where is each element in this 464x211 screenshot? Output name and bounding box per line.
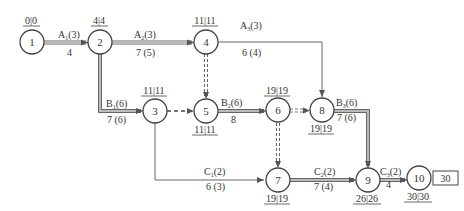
activity-duration-a2: 7 (5) [136, 47, 155, 59]
activity-duration-c2: 7 (4) [314, 181, 333, 193]
svg-text:4: 4 [203, 36, 209, 48]
activity-duration-b2: 8 [231, 114, 236, 125]
edge-2-4 [112, 41, 194, 44]
node-times: 11|11 [143, 85, 164, 96]
node-times: 19|19 [310, 123, 332, 134]
node-times: 19|19 [266, 193, 288, 204]
svg-text:6: 6 [275, 104, 281, 116]
activity-label-c1: C1(2) [204, 166, 225, 178]
edge-1-2 [44, 41, 88, 44]
edge-5-6 [218, 110, 266, 113]
svg-text:2: 2 [97, 36, 103, 48]
svg-text:8: 8 [319, 104, 325, 116]
svg-text:5: 5 [203, 105, 209, 117]
node-4: 4 11|11 [192, 15, 218, 54]
activity-duration-c1: 6 (3) [206, 181, 225, 193]
node-times: 30|30 [407, 191, 429, 202]
node-times: 4|4 [93, 15, 105, 26]
node-5: 5 11|11 [192, 99, 218, 135]
activity-duration-b1: 7 (6) [107, 114, 126, 126]
node-times: 19|19 [266, 85, 288, 96]
node-3: 3 11|11 [141, 85, 167, 123]
activity-duration-a1: 4 [67, 47, 72, 58]
activity-duration-a3: 6 (4) [242, 47, 261, 59]
dummy-6-7 [277, 123, 280, 168]
node-8: 8 19|19 [308, 98, 334, 134]
dummy-6-8 [290, 109, 310, 112]
activity-label-a1: A1(3) [58, 29, 80, 41]
node-times: 26|26 [356, 193, 378, 204]
activity-label-c3: C3(2) [380, 166, 401, 178]
node-6: 6 19|19 [264, 85, 290, 122]
node-times: 11|11 [194, 15, 215, 26]
final-duration-box: 30 [441, 173, 451, 184]
node-times: 11|11 [194, 124, 215, 135]
activity-duration-b3: 7 (6) [337, 112, 356, 124]
node-2: 2 4|4 [88, 15, 112, 54]
activity-label-b1: B1(6) [106, 98, 127, 110]
dummy-4-5 [205, 54, 208, 99]
svg-text:9: 9 [365, 174, 371, 186]
activity-duration-c3: 4 [386, 179, 391, 190]
node-1: 1 0|0 [20, 15, 44, 54]
node-7: 7 19|19 [264, 168, 290, 204]
svg-text:3: 3 [152, 105, 158, 117]
svg-text:7: 7 [275, 174, 281, 186]
node-9: 9 26|26 [353, 168, 381, 204]
activity-label-c2: C2(2) [314, 166, 335, 178]
svg-text:1: 1 [29, 36, 35, 48]
activity-label-a2: A2(3) [134, 29, 156, 41]
edge-9-10 [380, 179, 407, 182]
svg-text:10: 10 [414, 172, 426, 184]
node-times: 0|0 [25, 15, 37, 26]
activity-label-a3: A3(3) [240, 20, 262, 32]
activity-label-b3: B3(6) [336, 97, 357, 109]
network-diagram: A1(3) 4 A2(3) 7 (5) A3(3) 6 (4) B1(6) 7 … [0, 0, 464, 211]
activity-label-b2: B2(6) [221, 97, 242, 109]
node-10: 10 30|30 30 [404, 166, 458, 202]
